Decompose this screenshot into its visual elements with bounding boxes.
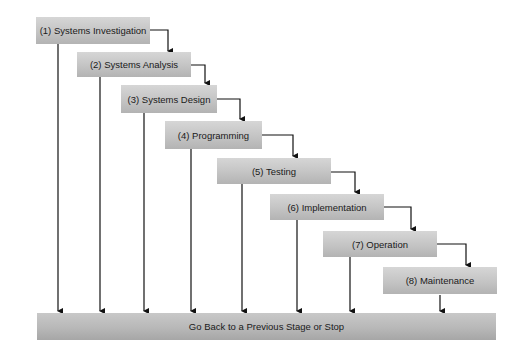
stage-label: (5) Testing — [252, 166, 296, 177]
arrow-3-to-4 — [217, 99, 240, 119]
stage-label: (2) Systems Analysis — [90, 59, 178, 70]
stage-label: (1) Systems Investigation — [40, 25, 147, 36]
arrow-6-to-7 — [384, 207, 411, 229]
arrow-4-to-5 — [262, 135, 293, 156]
arrow-2-to-3 — [191, 65, 205, 83]
stage-programming: (4) Programming — [165, 121, 262, 149]
arrow-7-to-8 — [437, 244, 466, 265]
arrow-1-to-2 — [150, 30, 168, 51]
stage-implementation: (6) Implementation — [270, 194, 384, 220]
stage-operation: (7) Operation — [323, 231, 437, 257]
stage-label: (3) Systems Design — [128, 94, 211, 105]
stage-systems-analysis: (2) Systems Analysis — [77, 52, 191, 77]
stage-systems-design: (3) Systems Design — [121, 85, 217, 113]
stage-label: (7) Operation — [352, 239, 408, 250]
stage-label: (8) Maintenance — [406, 275, 475, 286]
stage-testing: (5) Testing — [217, 158, 331, 184]
return-bar: Go Back to a Previous Stage or Stop — [37, 313, 496, 340]
stage-label: (4) Programming — [178, 130, 249, 141]
stage-systems-investigation: (1) Systems Investigation — [36, 17, 150, 44]
return-bar-label: Go Back to a Previous Stage or Stop — [189, 321, 344, 332]
arrow-5-to-6 — [331, 172, 355, 192]
stage-label: (6) Implementation — [287, 202, 366, 213]
stage-maintenance: (8) Maintenance — [383, 267, 497, 294]
